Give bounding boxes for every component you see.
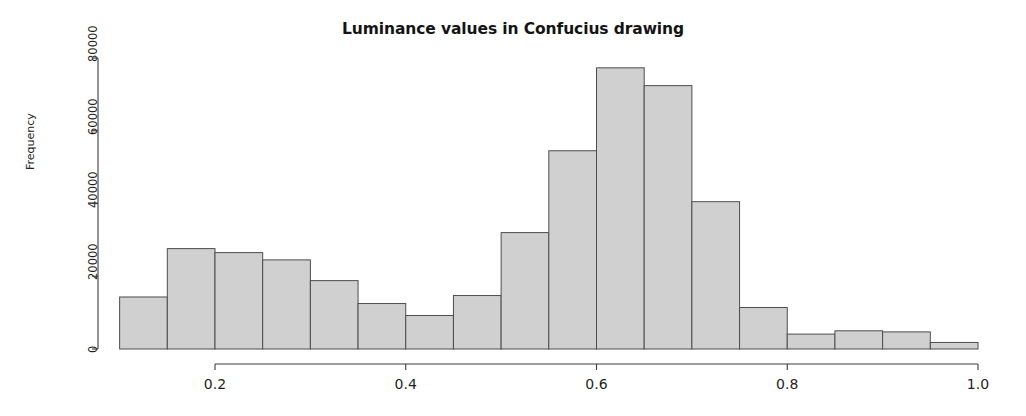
histogram-bar [787, 334, 835, 349]
histogram-bar [406, 316, 454, 349]
plot-area [0, 0, 1026, 416]
histogram-bar [215, 253, 263, 349]
histogram-bar [501, 233, 549, 349]
histogram-bar [597, 68, 645, 349]
bars-group [120, 68, 978, 349]
histogram-bar [835, 331, 883, 349]
histogram-bar [692, 202, 740, 349]
histogram-bar [310, 281, 358, 349]
histogram-chart: Luminance values in Confucius drawing Fr… [0, 0, 1026, 416]
histogram-bar [263, 260, 311, 349]
histogram-bar [453, 296, 501, 349]
histogram-bar [644, 86, 692, 349]
histogram-bar [358, 304, 406, 349]
histogram-bar [549, 151, 597, 349]
histogram-bar [740, 308, 788, 349]
histogram-bar [120, 297, 168, 349]
histogram-bar [930, 342, 978, 349]
histogram-bar [883, 332, 931, 349]
histogram-bar [167, 249, 215, 349]
